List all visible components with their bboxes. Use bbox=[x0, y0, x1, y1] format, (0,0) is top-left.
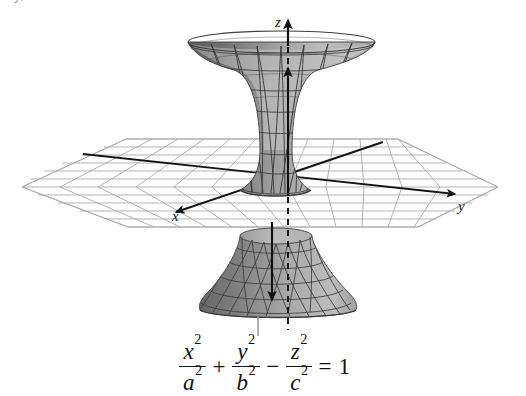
equation-caption: x2 a2 + y2 b2 − z2 c2 = 1 bbox=[0, 338, 526, 395]
term-z-denominator-symbol: c bbox=[290, 369, 300, 394]
lower-sheet-body bbox=[199, 236, 356, 318]
term-z-denominator-exponent: 2 bbox=[301, 362, 308, 378]
equation-operator-plus: + bbox=[213, 355, 226, 378]
hyperboloid-3d-plot bbox=[0, 0, 526, 340]
equation-row: x2 a2 + y2 b2 − z2 c2 = 1 bbox=[176, 338, 350, 395]
equation-right-hand-side: 1 bbox=[339, 355, 351, 378]
term-z-fraction: z2 c2 bbox=[285, 338, 312, 395]
term-y-denominator: b2 bbox=[232, 367, 261, 395]
term-x-denominator-symbol: a bbox=[183, 369, 195, 394]
term-y-fraction: y2 b2 bbox=[232, 338, 261, 395]
x-axis-label: x bbox=[172, 208, 179, 225]
term-y-denominator-symbol: b bbox=[237, 369, 249, 394]
term-y-numerator-exponent: 2 bbox=[248, 331, 255, 347]
term-y-numerator-symbol: y bbox=[237, 339, 247, 364]
equation-operator-minus: − bbox=[266, 355, 279, 378]
lower-hyperboloid-sheet bbox=[199, 228, 356, 318]
term-x-numerator-symbol: x bbox=[184, 339, 194, 364]
term-x-fraction: x2 a2 bbox=[178, 338, 207, 395]
term-x-denominator-exponent: 2 bbox=[195, 362, 202, 378]
term-y-denominator-exponent: 2 bbox=[249, 362, 256, 378]
figure-container: y, z > 0 in all cases bbox=[0, 0, 526, 396]
term-x-numerator-exponent: 2 bbox=[194, 331, 201, 347]
term-z-numerator-exponent: 2 bbox=[300, 331, 307, 347]
term-z-denominator: c2 bbox=[285, 367, 312, 395]
z-axis-label: z bbox=[275, 14, 281, 31]
equation-equals-sign: = bbox=[319, 355, 332, 378]
term-z-numerator-symbol: z bbox=[291, 339, 300, 364]
lower-sheet-waist-ellipse bbox=[240, 228, 312, 244]
y-axis-label: y bbox=[458, 198, 465, 215]
term-x-denominator: a2 bbox=[178, 367, 207, 395]
